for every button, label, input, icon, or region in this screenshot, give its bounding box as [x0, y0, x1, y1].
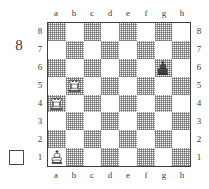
- board-square-a3[interactable]: [48, 112, 66, 130]
- file-label-a: a: [47, 9, 65, 18]
- board-square-c5[interactable]: [84, 77, 102, 95]
- board-square-d4[interactable]: [101, 95, 119, 113]
- rank-label-4: 4: [35, 94, 45, 112]
- rank-label-6: 6: [35, 58, 45, 76]
- board-square-d5[interactable]: [101, 77, 119, 95]
- board-square-f2[interactable]: [137, 130, 155, 148]
- board-square-a8[interactable]: [48, 23, 66, 41]
- rank-label-5: 5: [35, 76, 45, 94]
- board-square-e5[interactable]: [119, 77, 137, 95]
- board-square-d6[interactable]: [101, 59, 119, 77]
- board-square-h3[interactable]: [172, 112, 190, 130]
- file-label-c: c: [83, 9, 101, 18]
- board-square-h1[interactable]: [172, 148, 190, 166]
- file-label-f: f: [137, 171, 155, 180]
- board-square-h5[interactable]: [172, 77, 190, 95]
- board-square-f1[interactable]: [137, 148, 155, 166]
- board-square-c7[interactable]: [84, 41, 102, 59]
- rank-label-4: 4: [194, 94, 204, 112]
- diagram-number: 8: [8, 36, 30, 54]
- board-square-e1[interactable]: [119, 148, 137, 166]
- board-square-h4[interactable]: [172, 95, 190, 113]
- board-square-g6[interactable]: [155, 59, 173, 77]
- white-rook-a4[interactable]: [48, 95, 66, 113]
- board-square-c8[interactable]: [84, 23, 102, 41]
- file-label-h: h: [173, 171, 191, 180]
- board-square-d7[interactable]: [101, 41, 119, 59]
- black-king-g6[interactable]: [155, 59, 173, 77]
- rank-label-1: 1: [194, 148, 204, 166]
- board-square-f5[interactable]: [137, 77, 155, 95]
- board-square-a7[interactable]: [48, 41, 66, 59]
- file-label-f: f: [137, 9, 155, 18]
- board-square-f8[interactable]: [137, 23, 155, 41]
- board-square-g8[interactable]: [155, 23, 173, 41]
- board-square-f4[interactable]: [137, 95, 155, 113]
- board-grid: [48, 23, 190, 166]
- board-square-c2[interactable]: [84, 130, 102, 148]
- rank-label-8: 8: [35, 22, 45, 40]
- board-square-b3[interactable]: [66, 112, 84, 130]
- rank-label-5: 5: [194, 76, 204, 94]
- file-label-g: g: [155, 9, 173, 18]
- board-square-b7[interactable]: [66, 41, 84, 59]
- board-square-g4[interactable]: [155, 95, 173, 113]
- board-square-e7[interactable]: [119, 41, 137, 59]
- file-label-e: e: [119, 9, 137, 18]
- file-label-d: d: [101, 9, 119, 18]
- board-square-a4[interactable]: [48, 95, 66, 113]
- file-label-d: d: [101, 171, 119, 180]
- board-square-e2[interactable]: [119, 130, 137, 148]
- board-square-f6[interactable]: [137, 59, 155, 77]
- board-square-f7[interactable]: [137, 41, 155, 59]
- side-to-move-indicator: [9, 150, 24, 165]
- board-square-e8[interactable]: [119, 23, 137, 41]
- file-labels-bottom: abcdefgh: [47, 171, 191, 181]
- board-square-a6[interactable]: [48, 59, 66, 77]
- rank-label-1: 1: [35, 148, 45, 166]
- board-square-g2[interactable]: [155, 130, 173, 148]
- board-square-c6[interactable]: [84, 59, 102, 77]
- board-square-b5[interactable]: [66, 77, 84, 95]
- board-square-h7[interactable]: [172, 41, 190, 59]
- board-square-h2[interactable]: [172, 130, 190, 148]
- board-square-h6[interactable]: [172, 59, 190, 77]
- board-square-g1[interactable]: [155, 148, 173, 166]
- board-square-d8[interactable]: [101, 23, 119, 41]
- board-square-a5[interactable]: [48, 77, 66, 95]
- board-square-b6[interactable]: [66, 59, 84, 77]
- file-label-c: c: [83, 171, 101, 180]
- board-square-f3[interactable]: [137, 112, 155, 130]
- white-king-a1[interactable]: [48, 148, 66, 166]
- board-square-b4[interactable]: [66, 95, 84, 113]
- board-square-e6[interactable]: [119, 59, 137, 77]
- file-label-a: a: [47, 171, 65, 180]
- board-square-a1[interactable]: [48, 148, 66, 166]
- board-square-d3[interactable]: [101, 112, 119, 130]
- board-square-d2[interactable]: [101, 130, 119, 148]
- board-square-b8[interactable]: [66, 23, 84, 41]
- board-square-e4[interactable]: [119, 95, 137, 113]
- rank-labels-left: 87654321: [35, 22, 45, 167]
- board-square-e3[interactable]: [119, 112, 137, 130]
- board-square-c3[interactable]: [84, 112, 102, 130]
- rank-label-2: 2: [35, 130, 45, 148]
- board-square-b2[interactable]: [66, 130, 84, 148]
- rank-label-3: 3: [194, 112, 204, 130]
- board-square-a2[interactable]: [48, 130, 66, 148]
- rank-labels-right: 87654321: [194, 22, 204, 167]
- board-square-g3[interactable]: [155, 112, 173, 130]
- rank-label-7: 7: [35, 40, 45, 58]
- board-square-b1[interactable]: [66, 148, 84, 166]
- board-square-h8[interactable]: [172, 23, 190, 41]
- file-label-h: h: [173, 9, 191, 18]
- board-square-g7[interactable]: [155, 41, 173, 59]
- white-rook-b5[interactable]: [66, 77, 84, 95]
- board-square-c4[interactable]: [84, 95, 102, 113]
- diagram-margin: 8: [0, 0, 40, 189]
- board-square-c1[interactable]: [84, 148, 102, 166]
- board-square-g5[interactable]: [155, 77, 173, 95]
- board-square-d1[interactable]: [101, 148, 119, 166]
- file-label-g: g: [155, 171, 173, 180]
- file-label-b: b: [65, 9, 83, 18]
